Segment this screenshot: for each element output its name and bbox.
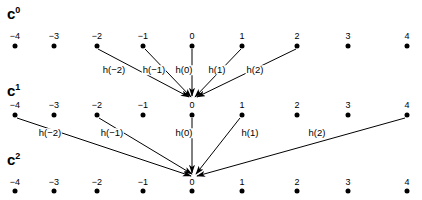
filter-label-stage1-h1: h(1): [208, 65, 227, 75]
filter-label-stage2-h2: h(2): [308, 128, 327, 138]
filter-label-stage2-h0: h(0): [175, 128, 194, 138]
tick-label-c1-p4: 4: [404, 101, 409, 110]
row-label-c0-exponent: 0: [15, 5, 20, 15]
sample-dot-c0-p4: [405, 44, 410, 49]
filter-label-stage1-h2: h(2): [246, 65, 265, 75]
sample-dot-c2-0: [190, 189, 195, 194]
tick-label-c1-0: 0: [189, 101, 194, 110]
sample-dot-c2-p3: [346, 189, 351, 194]
tick-label-c0-m1: −1: [138, 32, 148, 41]
sample-dot-c2-m3: [52, 189, 57, 194]
arrow-stage2-from-p4: [197, 118, 405, 176]
tick-label-c2-m4: −4: [10, 178, 20, 187]
sample-dot-c2-p1: [240, 189, 245, 194]
tick-label-c0-p2: 2: [294, 32, 299, 41]
tick-label-c0-p4: 4: [404, 32, 409, 41]
sample-dot-c1-m1: [141, 113, 146, 118]
tick-label-c0-p3: 3: [345, 32, 350, 41]
sample-dot-c2-p2: [295, 189, 300, 194]
sample-dot-c0-m4: [13, 44, 18, 49]
tick-label-c0-p1: 1: [239, 32, 244, 41]
tick-label-c0-0: 0: [189, 32, 194, 41]
tick-label-c0-m2: −2: [92, 32, 102, 41]
sample-dot-c1-0: [190, 113, 195, 118]
arrow-layer: [0, 0, 422, 200]
filter-label-stage2-h1: h(1): [241, 128, 260, 138]
filter-label-stage2-hm1: h(−1): [100, 128, 124, 138]
tick-label-c2-m2: −2: [92, 178, 102, 187]
sample-dot-c1-m2: [95, 113, 100, 118]
sample-dot-c2-p4: [405, 189, 410, 194]
tick-label-c2-m3: −3: [49, 178, 59, 187]
row-label-c2-exponent: 2: [15, 151, 20, 161]
sample-dot-c0-p3: [346, 44, 351, 49]
tick-label-c2-p3: 3: [345, 178, 350, 187]
tick-label-c1-p1: 1: [239, 101, 244, 110]
tick-label-c0-m3: −3: [49, 32, 59, 41]
sample-dot-c1-p2: [295, 113, 300, 118]
filter-label-stage2-hm2: h(−2): [38, 128, 62, 138]
sample-dot-c1-p4: [405, 113, 410, 118]
sample-dot-c2-m4: [13, 189, 18, 194]
tick-label-c1-p3: 3: [345, 101, 350, 110]
sample-dot-c0-0: [190, 44, 195, 49]
filter-label-stage1-hm2: h(−2): [102, 65, 126, 75]
row-label-c2: c2: [7, 152, 20, 167]
tick-label-c2-p2: 2: [294, 178, 299, 187]
sample-dot-c2-m1: [141, 189, 146, 194]
sample-dot-c0-p2: [295, 44, 300, 49]
tick-label-c2-0: 0: [189, 178, 194, 187]
tick-label-c1-p2: 2: [294, 101, 299, 110]
tick-label-c2-p1: 1: [239, 178, 244, 187]
filter-label-stage1-h0: h(0): [175, 65, 194, 75]
row-label-c1-exponent: 1: [15, 82, 20, 92]
sample-dot-c0-m1: [141, 44, 146, 49]
filter-label-stage1-hm1: h(−1): [142, 65, 166, 75]
tick-label-c1-m1: −1: [138, 101, 148, 110]
filter-bank-diagram: c0 c1 c2 −4 −3 −2 −1 0 1 2 3 4 −4 −3 −2 …: [0, 0, 422, 200]
row-label-c0: c0: [7, 6, 20, 21]
tick-label-c1-m2: −2: [92, 101, 102, 110]
tick-label-c2-m1: −1: [138, 178, 148, 187]
sample-dot-c0-p1: [240, 44, 245, 49]
tick-label-c0-m4: −4: [10, 32, 20, 41]
tick-label-c2-p4: 4: [404, 178, 409, 187]
sample-dot-c2-m2: [95, 189, 100, 194]
row-label-c1: c1: [7, 83, 20, 98]
sample-dot-c1-m3: [52, 113, 57, 118]
sample-dot-c0-m3: [52, 44, 57, 49]
arrow-stage2-from-p2: [196, 118, 240, 174]
tick-label-c1-m3: −3: [49, 101, 59, 110]
tick-label-c1-m4: −4: [10, 101, 20, 110]
sample-dot-c1-m4: [13, 113, 18, 118]
sample-dot-c1-p1: [240, 113, 245, 118]
sample-dot-c0-m2: [95, 44, 100, 49]
sample-dot-c1-p3: [346, 113, 351, 118]
